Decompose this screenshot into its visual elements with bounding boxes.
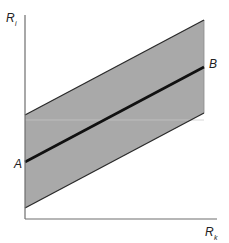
point-b-label: B — [209, 57, 217, 71]
diagram-canvas: R i R k A B — [0, 0, 229, 243]
regression-band-diagram: R i R k A B — [0, 0, 229, 243]
x-axis-label: R — [205, 225, 214, 239]
point-a-label: A — [13, 157, 22, 171]
x-axis-label-subscript: k — [214, 234, 218, 241]
y-axis-label-subscript: i — [15, 20, 17, 27]
y-axis-label: R — [6, 11, 15, 25]
